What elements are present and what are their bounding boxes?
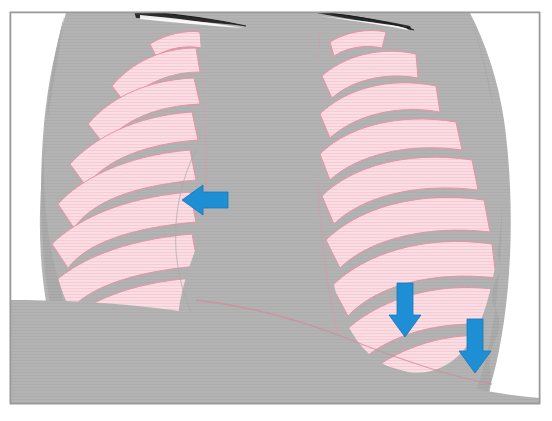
- chest-xray-illustration: [0, 0, 552, 421]
- figure-root: Chest radiograph schematic — lung fields…: [0, 0, 552, 421]
